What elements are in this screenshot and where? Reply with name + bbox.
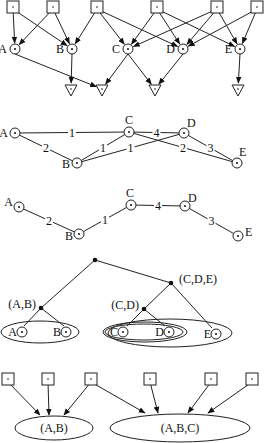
source-square-dot (7, 378, 9, 380)
spanning-tree-panel: 2143ABCDE (4, 186, 252, 243)
node-label: C (126, 186, 134, 200)
variable-node-e-center-dot (239, 48, 241, 50)
node-label: A (4, 195, 13, 209)
edge-weight-label: 2 (180, 141, 186, 155)
sink-triangle-dot (237, 88, 239, 90)
cluster-node-label: (A,B,C) (161, 421, 200, 435)
node-label: B (62, 157, 70, 171)
graph-node-e-center-dot (237, 235, 239, 237)
edge-weight-label: 1 (69, 126, 75, 140)
leaf-label: B (53, 325, 61, 339)
source-square-dot (216, 6, 218, 8)
tree-edge (144, 309, 165, 326)
tree-junction-dot (93, 258, 98, 263)
sink-triangle-node (96, 85, 108, 96)
dag-edge (128, 54, 151, 84)
edge-weight-label: 1 (128, 141, 134, 155)
cluster-model-panel: (A,B)(A,B,C) (2, 373, 258, 442)
variable-label: C (112, 42, 120, 56)
variable-label: A (0, 42, 7, 56)
cluster-node-label: (A,B) (40, 421, 68, 435)
leaf-label: C (110, 325, 118, 339)
source-square-dot (210, 378, 212, 380)
edge-weight-label: 4 (155, 199, 161, 213)
dag-edge (97, 9, 178, 46)
graph-node-c-center-dot (128, 131, 130, 133)
variable-label: B (56, 42, 64, 56)
graph-node-b-center-dot (76, 162, 78, 164)
edge-weight-label: 2 (46, 214, 52, 228)
weighted-graph-panel: 1211423ABCDE (0, 113, 246, 171)
node-label: D (187, 116, 196, 130)
sink-triangle-dot (101, 88, 103, 90)
dag-edge (15, 54, 96, 87)
variable-node-d-center-dot (182, 48, 184, 50)
sink-triangle-node (65, 85, 77, 96)
source-square-dot (47, 378, 49, 380)
hierarchy-panel: (A,B)(C,D,E)(C,D)ABCDE (1, 258, 232, 347)
tree-edge (41, 260, 95, 308)
source-square-dot (12, 6, 14, 8)
leaf-label: D (155, 325, 164, 339)
dag-edge (242, 9, 257, 43)
variable-node-c-center-dot (127, 48, 129, 50)
dag-edge (13, 9, 67, 46)
source-square-dot (149, 378, 151, 380)
cluster-model-edge (91, 382, 145, 413)
diagram-figure: ABCDE 1211423ABCDE 2143ABCDE (A,B)(C,D,E… (0, 0, 269, 443)
variable-label: E (225, 42, 232, 56)
edge-weight-label: 1 (102, 213, 108, 227)
edge-weight-label: 3 (209, 214, 215, 228)
cluster-model-edge (48, 382, 49, 415)
cluster-model-edge (8, 382, 40, 415)
dag-edge (13, 9, 15, 43)
tree-junction-dot (142, 307, 147, 312)
node-label: B (65, 229, 73, 243)
leaf-label: E (204, 327, 211, 341)
cluster-model-edge (64, 382, 91, 415)
sink-triangle-node (149, 85, 161, 96)
graph-node-a-center-dot (18, 206, 20, 208)
source-square-dot (251, 378, 253, 380)
cluster-model-edge (208, 382, 252, 413)
graph-node-e-center-dot (236, 162, 238, 164)
source-square-dot (256, 6, 258, 8)
cluster-label: (A,B) (8, 297, 36, 311)
graph-node-c-center-dot (130, 204, 132, 206)
cluster-label: (C,D,E) (179, 272, 217, 286)
sink-triangle-dot (70, 88, 72, 90)
dag-edge (159, 54, 183, 84)
tree-edge (41, 308, 64, 326)
cluster-label: (C,D) (111, 298, 139, 312)
figure-canvas: ABCDE 1211423ABCDE 2143ABCDE (A,B)(C,D,E… (0, 0, 269, 443)
dag-edge (53, 9, 69, 44)
dag-edge (217, 9, 237, 44)
leaf-node-d-center-dot (168, 331, 170, 333)
tree-junction-dot (39, 306, 44, 311)
leaf-label: A (8, 325, 17, 339)
source-square-dot (90, 378, 92, 380)
tree-edge (144, 283, 171, 309)
dag-edge (238, 54, 240, 83)
graph-node-b-center-dot (78, 233, 80, 235)
leaf-node-e-center-dot (215, 333, 217, 335)
dag-edge (75, 9, 97, 44)
leaf-node-b-center-dot (65, 331, 67, 333)
node-label: E (239, 145, 246, 159)
variable-node-a-center-dot (14, 48, 16, 50)
dag-edge (19, 9, 53, 45)
source-square-dot (96, 6, 98, 8)
node-label: E (245, 225, 252, 239)
graph-node-a-center-dot (14, 132, 16, 134)
cluster-model-edge (188, 382, 211, 413)
variable-label: D (166, 42, 175, 56)
dag-edge (133, 9, 217, 47)
cluster-model-edge (150, 382, 158, 413)
dag-panel: ABCDE (0, 1, 263, 96)
tree-edge (95, 260, 171, 283)
dag-edge (106, 54, 128, 84)
node-label: D (188, 191, 197, 205)
sink-triangle-dot (154, 88, 156, 90)
graph-node-d-center-dot (184, 205, 186, 207)
dag-edge (97, 9, 124, 44)
